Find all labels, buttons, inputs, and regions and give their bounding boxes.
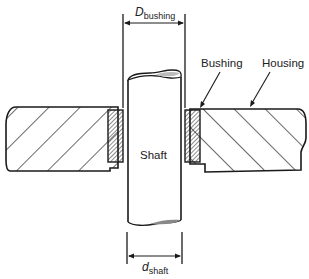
right-housing (190, 109, 306, 172)
bushing-shaft-diagram: Dbushing Bushing Housing Shaft (0, 0, 309, 279)
shaft (128, 70, 181, 225)
housing-label: Housing (262, 57, 304, 69)
left-housing (6, 107, 118, 171)
shaft-label: Shaft (140, 149, 168, 161)
left-bushing (108, 110, 123, 162)
right-bushing (185, 110, 200, 162)
shaft-diameter-dimension: dshaft (127, 232, 182, 276)
bushing-diameter-label: Dbushing (135, 5, 175, 21)
shaft-diameter-label: dshaft (142, 260, 169, 276)
bushing-label: Bushing (201, 57, 243, 69)
housing-leader-line (252, 72, 270, 103)
bushing-leader-line (202, 72, 220, 104)
